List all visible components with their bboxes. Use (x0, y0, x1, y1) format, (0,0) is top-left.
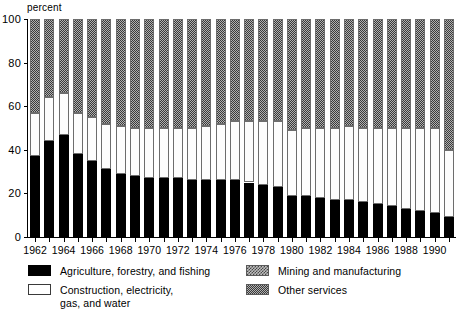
bar-segment-agri (387, 206, 397, 237)
legend-swatch-mining-icon (246, 265, 269, 276)
x-tick-mark (292, 238, 293, 242)
bar-segment-cons (187, 128, 197, 180)
bar-segment-serv (387, 19, 397, 128)
bar-segment-agri (315, 198, 325, 237)
x-tick-mark (135, 238, 136, 242)
bar-segment-cons (430, 128, 440, 213)
x-tick-label: 1962 (23, 244, 47, 256)
x-tick-mark (206, 238, 207, 242)
bar-segment-serv (173, 19, 183, 128)
legend-label-construction: Construction, electricity, gas, and wate… (60, 284, 173, 309)
bar-1982 (315, 19, 325, 237)
y-tick-label: 60 (0, 100, 21, 112)
y-axis-unit-label: percent (27, 2, 62, 13)
legend-item-agriculture: Agriculture, forestry, and fishing (28, 265, 210, 278)
bar-segment-serv (216, 19, 226, 124)
bar-segment-serv (258, 19, 268, 121)
bar-1991 (444, 19, 454, 237)
x-tick-mark (106, 238, 107, 242)
x-tick-mark (378, 238, 379, 242)
bar-segment-serv (230, 19, 240, 121)
bar-segment-serv (87, 19, 97, 117)
legend-item-other-services: Other services (246, 284, 347, 297)
bar-1967 (101, 19, 111, 237)
x-tick-label: 1968 (109, 244, 133, 256)
bar-segment-serv (273, 19, 283, 121)
bar-1964 (59, 19, 69, 237)
x-tick-mark (35, 238, 36, 242)
y-tick-label: 20 (0, 187, 21, 199)
bar-1986 (373, 19, 383, 237)
bar-1973 (187, 19, 197, 237)
bar-segment-serv (330, 19, 340, 128)
bar-segment-cons (415, 128, 425, 211)
y-tick-label: 80 (0, 57, 21, 69)
bar-segment-serv (244, 19, 254, 121)
plot-area (28, 19, 456, 237)
bar-segment-cons (387, 128, 397, 206)
bar-segment-cons (159, 128, 169, 178)
bar-segment-agri (173, 178, 183, 237)
bar-1968 (116, 19, 126, 237)
bar-segment-cons (144, 128, 154, 178)
bar-1965 (73, 19, 83, 237)
bar-segment-cons (130, 128, 140, 176)
bar-segment-agri (358, 202, 368, 237)
bar-segment-agri (101, 169, 111, 237)
bar-1969 (130, 19, 140, 237)
x-tick-mark (235, 238, 236, 242)
bar-segment-agri (373, 204, 383, 237)
legend-item-construction: Construction, electricity, gas, and wate… (28, 284, 173, 309)
x-tick-mark (249, 238, 250, 242)
bar-segment-serv (101, 19, 111, 124)
x-tick-mark (178, 238, 179, 242)
y-tick-label: 100 (0, 13, 21, 25)
bar-segment-cons (244, 121, 254, 182)
bar-1963 (44, 19, 54, 237)
bar-1974 (201, 19, 211, 237)
x-tick-label: 1974 (194, 244, 218, 256)
bar-segment-cons (287, 130, 297, 195)
legend-swatch-construction-icon (28, 284, 51, 295)
bar-segment-agri (130, 176, 140, 237)
bar-segment-agri (116, 174, 126, 237)
x-tick-label: 1988 (394, 244, 418, 256)
bar-1972 (173, 19, 183, 237)
bar-segment-serv (116, 19, 126, 126)
x-tick-mark (320, 238, 321, 242)
bar-segment-serv (430, 19, 440, 128)
bar-segment-cons (258, 121, 268, 184)
legend-swatch-agriculture-icon (28, 265, 51, 276)
bar-segment-agri (330, 200, 340, 237)
bar-segment-cons (401, 128, 411, 209)
bar-1977 (244, 19, 254, 237)
x-tick-label: 1970 (137, 244, 161, 256)
bar-segment-cons (358, 128, 368, 202)
bar-1966 (87, 19, 97, 237)
x-tick-mark (363, 238, 364, 242)
bar-1987 (387, 19, 397, 237)
bar-segment-cons (330, 128, 340, 200)
bar-segment-agri (430, 213, 440, 237)
bar-segment-agri (201, 180, 211, 237)
bar-segment-serv (144, 19, 154, 128)
bar-segment-serv (401, 19, 411, 128)
bar-1980 (287, 19, 297, 237)
bar-segment-serv (30, 19, 40, 113)
x-tick-mark (349, 238, 350, 242)
x-tick-mark (306, 238, 307, 242)
bar-segment-serv (159, 19, 169, 128)
bar-segment-cons (30, 113, 40, 157)
bar-segment-agri (401, 209, 411, 237)
bar-1971 (159, 19, 169, 237)
bar-segment-serv (287, 19, 297, 130)
bar-segment-cons (444, 150, 454, 218)
x-tick-mark (78, 238, 79, 242)
legend-label-other-services: Other services (278, 284, 347, 297)
bar-segment-serv (201, 19, 211, 126)
bar-segment-serv (358, 19, 368, 128)
bar-segment-agri (273, 187, 283, 237)
x-tick-label: 1964 (52, 244, 76, 256)
x-tick-mark (149, 238, 150, 242)
x-tick-mark (221, 238, 222, 242)
